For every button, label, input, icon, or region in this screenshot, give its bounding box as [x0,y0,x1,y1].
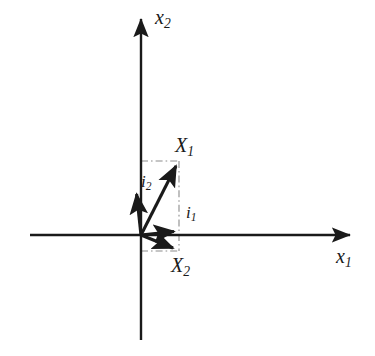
axis-label-x2-text: x [155,6,164,28]
vector-label-i1: i1 [186,203,197,224]
vector-label-X1: X1 [175,134,194,160]
vector-label-X1-text: X [175,134,187,156]
vector-label-i2-subscript: 2 [146,180,152,193]
vector-label-X2-subscript: 2 [183,264,190,279]
vector-X2-arrow [141,235,173,248]
axis-label-x1-text: x [336,245,345,267]
vector-label-X1-subscript: 1 [187,144,194,159]
axis-label-x1: x1 [336,245,352,271]
vector-label-X2-text: X [171,254,183,276]
vector-diagram-canvas [0,0,375,356]
coordinate-axes [30,19,350,340]
vector-label-i2: i2 [141,172,152,193]
vector-diagram-figure: x2 x1 X1 X2 i2 i1 [0,0,375,356]
vector-label-i1-subscript: 1 [191,211,197,224]
axis-label-x2: x2 [155,6,171,32]
axis-label-x1-subscript: 1 [345,255,352,270]
axis-label-x2-subscript: 2 [164,16,171,31]
vector-label-X2: X2 [171,254,190,280]
